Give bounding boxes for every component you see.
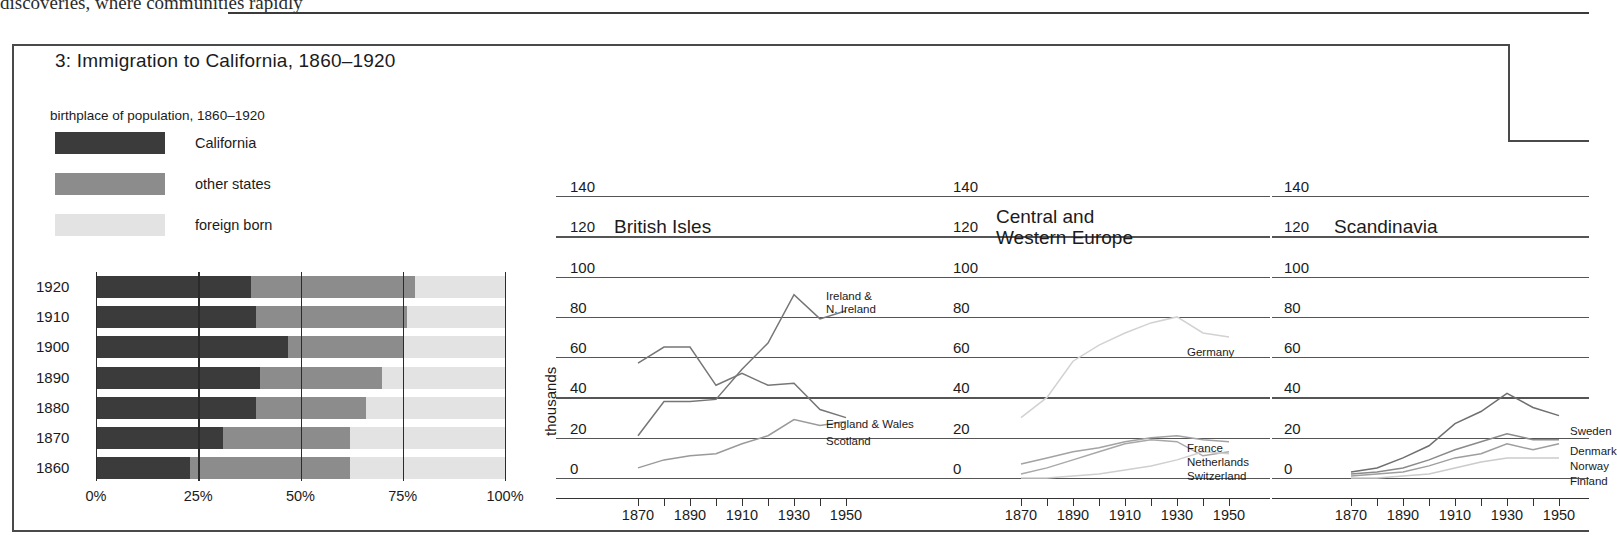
bar-segment-other-states [260, 367, 383, 389]
bar-row-label: 1890 [36, 367, 90, 389]
series-line-sweden [1351, 393, 1559, 472]
bar-axis-label: 25% [184, 488, 213, 504]
legend-swatch [55, 214, 165, 236]
bar-row-label: 1920 [36, 276, 90, 298]
series-annotation: Denmark [1570, 445, 1617, 458]
series-annotation-line: Sweden [1570, 425, 1612, 438]
bar-segment-california [96, 397, 256, 419]
bar-segment-other-states [251, 276, 415, 298]
legend: Californiaother statesforeign born [55, 128, 355, 251]
series-annotation-line: Netherlands [1187, 456, 1249, 469]
bar-segment-other-states [256, 306, 407, 328]
series-annotation: Finland [1570, 475, 1608, 488]
series-annotation: Germany [1187, 346, 1234, 359]
legend-label: California [195, 132, 256, 154]
series-annotation-line: France [1187, 442, 1223, 455]
bar-segment-foreign-born [403, 336, 505, 358]
figure-subtitle: birthplace of population, 1860–1920 [50, 108, 265, 123]
legend-label: other states [195, 173, 271, 195]
bar-row-label: 1900 [36, 336, 90, 358]
frame-border-left [12, 44, 14, 532]
bar-segment-foreign-born [407, 306, 505, 328]
bar-row-label: 1880 [36, 397, 90, 419]
legend-item: California [55, 128, 355, 169]
panel-title-line: Scandinavia [1334, 216, 1438, 237]
frame-border-top [12, 44, 1510, 46]
series-line-germany [1021, 317, 1229, 418]
y-axis-title: thousands [542, 367, 559, 436]
series-annotation-line: England & Wales [826, 418, 914, 431]
series-annotation-line: Switzerland [1187, 470, 1246, 483]
bar-segment-california [96, 336, 288, 358]
panel-title-line: Central and [996, 206, 1133, 227]
series-lines [556, 188, 946, 518]
bar-segment-california [96, 457, 190, 479]
bar-axis-label: 75% [388, 488, 417, 504]
series-lines [1272, 188, 1589, 518]
series-line-england-wales [638, 347, 846, 418]
bar-gridline [301, 272, 302, 481]
bar-segment-california [96, 427, 223, 449]
bar-segment-california [96, 306, 256, 328]
bar-segment-california [96, 276, 251, 298]
series-annotation-line: Germany [1187, 346, 1234, 359]
bar-gridline [198, 272, 199, 481]
series-annotation-line: Norway [1570, 460, 1609, 473]
bar-axis-label: 100% [486, 488, 523, 504]
horizontal-rule [228, 12, 1589, 14]
series-annotation: Switzerland [1187, 470, 1246, 483]
bar-segment-other-states [223, 427, 350, 449]
series-line-scotland [638, 420, 846, 468]
bar-gridline [96, 272, 97, 481]
panel-title: Scandinavia [1334, 216, 1438, 237]
bar-segment-california [96, 367, 260, 389]
panel-title: Central andWestern Europe [996, 206, 1133, 248]
bar-segment-other-states [288, 336, 403, 358]
bar-segment-foreign-born [415, 276, 505, 298]
frame-border-notch-vertical [1508, 44, 1510, 142]
bar-row-label: 1860 [36, 457, 90, 479]
series-line-ireland-n-ireland [638, 295, 846, 436]
bar-axis-label: 0% [86, 488, 107, 504]
series-annotation-line: Denmark [1570, 445, 1617, 458]
legend-label: foreign born [195, 214, 272, 236]
bar-segment-foreign-born [350, 457, 505, 479]
bar-gridline [403, 272, 404, 481]
series-annotation: Sweden [1570, 425, 1612, 438]
series-line-finland [1351, 458, 1559, 478]
series-annotation: Norway [1570, 460, 1609, 473]
series-annotation-line: N. Ireland [826, 303, 876, 316]
bar-segment-other-states [256, 397, 366, 419]
bar-row-label: 1910 [36, 306, 90, 328]
series-annotation: England & Wales [826, 418, 914, 431]
panel-title-line: British Isles [614, 216, 711, 237]
panel-title-line: Western Europe [996, 227, 1133, 248]
bar-segment-foreign-born [366, 397, 505, 419]
bar-row-label: 1870 [36, 427, 90, 449]
line-chart-british-isles: 14012010080604020018701890191019301950Br… [556, 188, 946, 488]
line-chart-scandinavia: 14012010080604020018701890191019301950Sc… [1272, 188, 1589, 488]
panel-title: British Isles [614, 216, 711, 237]
line-chart-central-western-europe: 14012010080604020018701890191019301950Ce… [940, 188, 1270, 488]
series-annotation: Netherlands [1187, 456, 1249, 469]
bar-segment-other-states [190, 457, 350, 479]
series-annotation: Ireland &N. Ireland [826, 290, 876, 315]
frame-border-bottom [12, 530, 1589, 532]
bar-segment-foreign-born [350, 427, 505, 449]
series-annotation-line: Finland [1570, 475, 1608, 488]
frame-border-notch-horizontal [1508, 140, 1589, 142]
legend-item: other states [55, 169, 355, 210]
bar-axis-label: 50% [286, 488, 315, 504]
figure-title: 3: Immigration to California, 1860–1920 [55, 50, 396, 72]
series-annotation-line: Scotland [826, 435, 871, 448]
legend-swatch [55, 173, 165, 195]
series-annotation-line: Ireland & [826, 290, 876, 303]
stacked-bar-chart: 19201910190018901880187018600%25%50%75%1… [36, 272, 536, 522]
series-annotation: France [1187, 442, 1223, 455]
bar-segment-foreign-born [382, 367, 505, 389]
series-annotation: Scotland [826, 435, 871, 448]
bar-gridline [505, 272, 506, 481]
legend-swatch [55, 132, 165, 154]
legend-item: foreign born [55, 210, 355, 251]
